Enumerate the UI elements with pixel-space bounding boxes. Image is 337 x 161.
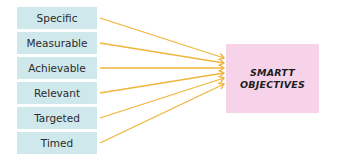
arrow-line [100,84,224,143]
arrow-line [100,73,224,93]
arrow-achievable [100,65,224,72]
arrow-relevant [100,70,224,93]
arrow-measurable [100,43,224,66]
arrow-line [100,18,224,58]
arrow-timed [100,83,224,143]
arrow-line [100,43,224,63]
arrow-line [100,78,224,118]
arrows-layer [0,0,337,161]
